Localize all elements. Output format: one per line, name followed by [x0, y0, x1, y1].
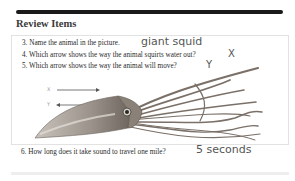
question-3: 3. Name the animal in the picture.: [22, 39, 120, 47]
answer-6: 5 seconds: [196, 143, 251, 156]
answer-3: giant squid: [141, 35, 202, 48]
section-title: Review Items: [16, 18, 76, 29]
answer-4: X: [228, 48, 235, 59]
header-rule: [16, 10, 283, 14]
footer-rule: [11, 172, 289, 175]
giant-squid-image: [30, 66, 265, 142]
question-6: 6. How long does it take sound to travel…: [21, 148, 166, 156]
question-4: 4. Which arrow shows the way the animal …: [22, 51, 196, 59]
